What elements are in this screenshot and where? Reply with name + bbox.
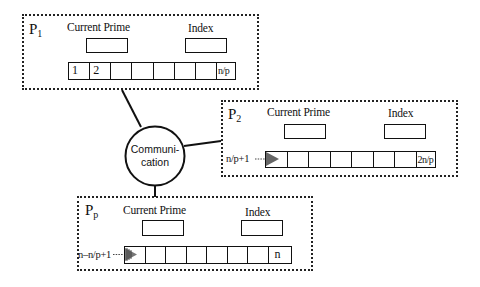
p2-current-prime-label: Current Prime [267,106,330,118]
array-cell [207,247,228,263]
array-cell [374,152,396,167]
p2-index-box [384,124,426,139]
pp-index-box [241,220,283,236]
processor-p1-label: P1 [29,22,42,41]
array-cell [146,247,167,263]
communication-label: Communi- cation [125,143,185,169]
processor-pp-label: Pp [85,203,98,222]
array-cell [395,152,417,167]
pp-current-prime-box [142,220,184,236]
p1-index-label: Index [188,22,213,34]
p2-current-prime-box [284,124,326,139]
array-cell [228,247,249,263]
p1-current-prime-label: Current Prime [67,21,130,33]
array-cell [309,152,331,167]
array-cell: 2 [90,63,111,79]
pp-current-prime-label: Current Prime [123,204,186,216]
array-cell [187,247,208,263]
array-cell [111,63,132,79]
array-cell [352,152,374,167]
processor-p2-label: P2 [228,107,241,126]
array-cell: 1 [69,63,90,79]
communication-label-line1: Communi- [125,143,185,156]
array-cell [248,247,269,263]
array-cell [166,247,187,263]
p1-array: 1 2 n/p [68,62,236,80]
pp-index-label: Index [245,206,270,218]
p2-array: 2n/p [265,151,436,168]
p2-array-start-label: n/p+1 [226,153,249,165]
link-p1-communication [122,90,141,127]
p1-index-box [185,38,227,53]
array-cell [196,63,217,79]
array-cell [125,247,146,263]
array-cell [331,152,353,167]
array-cell [154,63,175,79]
array-cell [175,63,196,79]
communication-label-line2: cation [125,156,185,169]
processor-label-sub: 2 [236,113,241,124]
array-cell-last: n/p [217,63,235,79]
p2-index-label: Index [388,107,413,119]
array-cell [288,152,310,167]
p1-current-prime-box [86,38,128,53]
array-cell [266,152,288,167]
processor-label-sub: 1 [37,28,42,39]
array-cell-last: 2n/p [417,152,436,167]
array-cell [132,63,153,79]
pp-array-start-label: n–n/p+1 [78,249,111,261]
processor-label-sub: p [93,209,98,220]
pp-array: n [124,246,292,264]
array-cell-last: n [269,247,292,263]
link-p2-communication [184,141,221,146]
